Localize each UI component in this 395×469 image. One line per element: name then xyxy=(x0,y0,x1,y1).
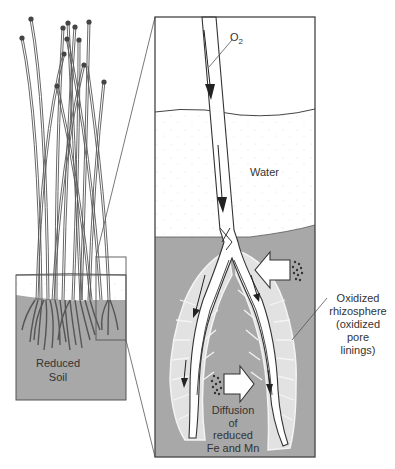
oxidized-line-2: rhizosphere xyxy=(321,305,395,318)
water-label: Water xyxy=(250,166,279,180)
oxidized-rhizosphere-label: Oxidized rhizosphere (oxidized pore lini… xyxy=(321,292,395,357)
diffusion-line-3: reduced xyxy=(200,429,266,442)
reduced-soil-label: Reduced Soil xyxy=(30,357,86,385)
detail-panel xyxy=(155,17,327,457)
flower-heads xyxy=(19,16,106,88)
diffusion-line-1: Diffusion xyxy=(200,404,266,417)
diffusion-line-2: of xyxy=(200,417,266,430)
o2-text: O xyxy=(230,31,239,43)
oxidized-line-4: pore xyxy=(321,331,395,344)
diffusion-label: Diffusion of reduced Fe and Mn xyxy=(200,404,266,454)
detail-water xyxy=(155,110,315,240)
diffusion-line-4: Fe and Mn xyxy=(200,442,266,455)
overview-panel xyxy=(16,16,155,457)
oxidized-line-3: (oxidized xyxy=(321,318,395,331)
oxidized-line-1: Oxidized xyxy=(321,292,395,305)
o2-label: O2 xyxy=(230,31,243,47)
reduced-soil-line-2: Soil xyxy=(30,371,86,385)
o2-subscript: 2 xyxy=(239,37,243,46)
oxidized-line-5: linings) xyxy=(321,344,395,357)
reduced-soil-line-1: Reduced xyxy=(30,357,86,371)
plant-stems xyxy=(21,19,110,300)
rhizosphere-diagram xyxy=(0,0,395,469)
